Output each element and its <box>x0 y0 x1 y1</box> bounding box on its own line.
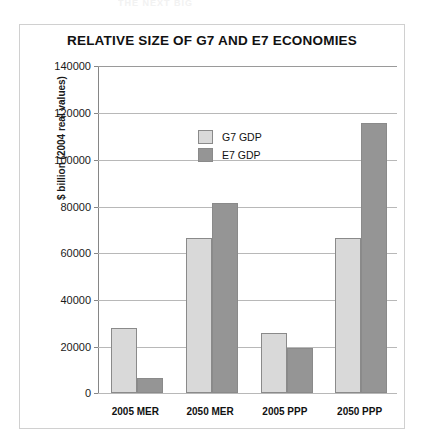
y-tick-label-40000: 40000 <box>60 294 91 306</box>
gridline-0: 0 <box>98 393 397 394</box>
bar-e7-2050-ppp[interactable] <box>361 123 387 393</box>
x-tick-label-2050-mer: 2050 MER <box>173 406 248 417</box>
y-axis-title: $ billion (2004 real values) <box>56 76 67 200</box>
x-tick-label-2005-ppp: 2005 PPP <box>248 406 323 417</box>
bar-group-2050-mer: 2050 MER <box>173 65 248 393</box>
y-tick-label-120000: 120000 <box>54 107 91 119</box>
bar-g7-2005-mer[interactable] <box>111 328 137 393</box>
scan-edge-artifact-text: THE NEXT BIG <box>118 0 268 7</box>
y-tick-label-20000: 20000 <box>60 341 91 353</box>
y-tick-label-60000: 60000 <box>60 247 91 259</box>
bar-e7-2050-mer[interactable] <box>212 203 238 393</box>
chart-title: RELATIVE SIZE OF G7 AND E7 ECONOMIES <box>20 33 404 48</box>
x-tick-label-2005-mer: 2005 MER <box>98 406 173 417</box>
bar-g7-2050-ppp[interactable] <box>335 238 361 393</box>
bar-group-2050-ppp: 2050 PPP <box>322 65 397 393</box>
bar-g7-2050-mer[interactable] <box>186 238 212 393</box>
chart-container: RELATIVE SIZE OF G7 AND E7 ECONOMIES $ b… <box>19 24 405 429</box>
y-tick-label-0: 0 <box>85 387 91 399</box>
plot-area: 140000 120000 100000 80000 60000 40000 2… <box>98 66 397 394</box>
bar-group-2005-mer: 2005 MER <box>98 65 173 393</box>
bar-e7-2005-mer[interactable] <box>137 378 163 393</box>
x-tick-label-2050-ppp: 2050 PPP <box>322 406 397 417</box>
y-tick-label-100000: 100000 <box>54 154 91 166</box>
bar-e7-2005-ppp[interactable] <box>287 348 313 393</box>
bar-g7-2005-ppp[interactable] <box>261 333 287 393</box>
y-tick-mark <box>94 393 98 394</box>
y-tick-label-80000: 80000 <box>60 201 91 213</box>
bar-group-2005-ppp: 2005 PPP <box>248 65 323 393</box>
y-tick-label-140000: 140000 <box>54 60 91 72</box>
